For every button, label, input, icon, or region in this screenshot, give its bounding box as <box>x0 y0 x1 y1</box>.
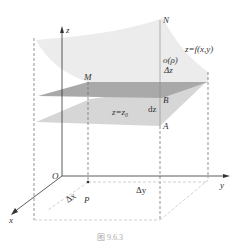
dz-label: dz <box>148 104 157 114</box>
z-arrow-icon <box>60 26 64 33</box>
point-P <box>87 181 90 184</box>
delta-y-label: Δy <box>136 185 147 195</box>
base-right-edge <box>160 180 208 220</box>
A-label: A <box>162 121 169 131</box>
x-axis-label: x <box>8 215 13 225</box>
z-axis-label: z <box>65 25 70 35</box>
M-label: M <box>83 72 92 82</box>
B-label: B <box>163 95 169 105</box>
rho-label: o(ρ) <box>163 55 178 65</box>
y-arrow-icon <box>223 174 230 178</box>
P-label: P <box>83 195 90 205</box>
x-arrow-icon <box>11 208 18 215</box>
surface-label: z=f(x,y) <box>184 44 213 54</box>
figure-caption: 图 9.6.3 <box>97 233 123 242</box>
y-axis-label: y <box>219 180 224 190</box>
x-axis <box>14 176 62 212</box>
N-label: N <box>162 15 170 25</box>
delta-x-label: Δx <box>63 190 78 204</box>
differential-diagram: z x y O N M B A P z=f(x,y) o(ρ) Δz dz z=… <box>0 0 239 243</box>
plane-label: z=z₀ <box>111 107 128 117</box>
origin-label: O <box>52 171 59 181</box>
delta-z-label: Δz <box>163 65 173 75</box>
